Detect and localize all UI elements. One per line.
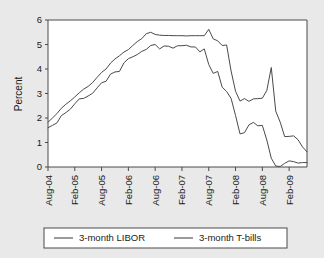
x-tick-label: Feb-08: [230, 175, 241, 205]
y-tick-label: 3: [37, 88, 42, 99]
chart-figure: 0123456Aug-04Feb-05Aug-05Feb-06Aug-06Feb…: [0, 0, 324, 258]
y-tick-label: 0: [37, 161, 42, 172]
legend-label-libor: 3-month LIBOR: [79, 232, 145, 243]
x-tick-label: Aug-04: [43, 175, 54, 206]
x-tick-label: Aug-07: [203, 175, 214, 206]
line-chart-svg: 0123456Aug-04Feb-05Aug-05Feb-06Aug-06Feb…: [0, 0, 324, 258]
legend-label-tbills: 3-month T-bills: [199, 232, 261, 243]
chart-legend: 3-month LIBOR3-month T-bills: [44, 228, 287, 248]
y-tick-label: 5: [37, 39, 42, 50]
y-tick-label: 1: [37, 137, 42, 148]
x-tick-label: Aug-05: [96, 175, 107, 206]
x-tick-label: Aug-06: [150, 175, 161, 206]
y-tick-label: 2: [37, 112, 42, 123]
x-tick-label: Feb-07: [176, 175, 187, 205]
x-tick-label: Aug-08: [257, 175, 268, 206]
x-tick-label: Feb-06: [123, 175, 134, 205]
y-tick-label: 6: [37, 14, 42, 25]
y-tick-label: 4: [37, 63, 42, 74]
y-axis-title: Percent: [13, 77, 24, 112]
x-tick-label: Feb-09: [284, 175, 295, 205]
x-tick-label: Feb-05: [69, 175, 80, 205]
